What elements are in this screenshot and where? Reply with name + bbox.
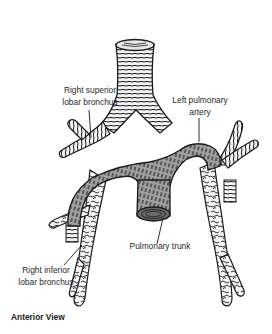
label-line: lobar bronchus <box>9 276 83 288</box>
label-right-superior-lobar-bronchus: Right superior lobar bronchus <box>53 84 127 107</box>
pulmonary-trunk <box>137 180 170 221</box>
figure-caption: Anterior View <box>11 311 65 322</box>
label-line: Right inferior <box>9 264 83 276</box>
label-line: Left pulmonary <box>163 94 237 106</box>
left-lower-bronchus <box>200 162 244 306</box>
label-left-pulmonary-artery: Left pulmonary artery <box>163 94 237 117</box>
label-line: Right superior <box>53 84 127 96</box>
right-superior-lobar-bronchus <box>59 120 110 158</box>
label-line: artery <box>163 106 237 118</box>
label-line: Pulmonary trunk <box>123 240 197 252</box>
label-line: lobar bronchus <box>53 96 127 108</box>
label-right-inferior-lobar-bronchus: Right inferior lobar bronchus <box>9 264 83 287</box>
label-pulmonary-trunk: Pulmonary trunk <box>123 240 197 252</box>
left-upper-bronchial-branches <box>215 121 259 168</box>
